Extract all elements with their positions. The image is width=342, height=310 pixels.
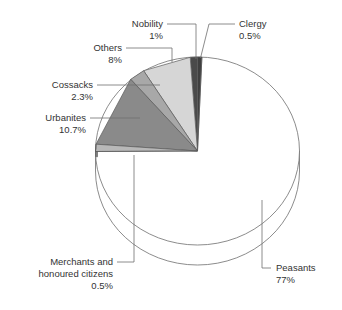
label-cossacks-value: 2.3% [71,91,93,102]
label-urbanites-name: Urbanites [45,112,86,123]
label-peasants-value: 77% [276,274,296,285]
pie-slice-merchants-depth [96,152,98,157]
label-clergy-name: Clergy [239,18,267,29]
label-others-value: 8% [108,54,122,65]
label-peasants-name: Peasants [276,262,316,273]
label-cossacks-name: Cossacks [52,79,93,90]
pie-chart-container: Nobility 1% Clergy 0.5% Others 8% Cossac… [0,0,342,310]
label-clergy-value: 0.5% [239,30,261,41]
leader-nobility [167,24,196,59]
label-urbanites-value: 10.7% [59,124,86,135]
label-others-name: Others [93,42,122,53]
pie-chart-svg: Nobility 1% Clergy 0.5% Others 8% Cossac… [0,0,342,310]
label-merchants-name-line1: Merchants and [50,256,113,267]
label-nobility-value: 1% [149,30,163,41]
label-merchants-name-line2: honoured citizens [39,268,114,279]
label-nobility-name: Nobility [132,18,163,29]
leader-others [126,48,172,62]
label-merchants-value: 0.5% [91,280,113,291]
leader-clergy [201,24,236,58]
